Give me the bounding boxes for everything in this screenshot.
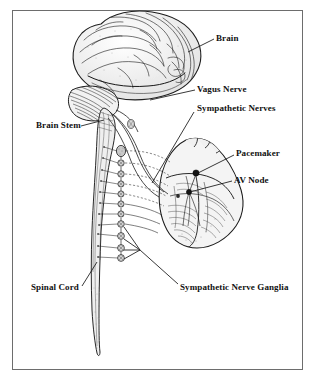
label-brain: Brain [216, 33, 239, 43]
label-spinal-cord: Spinal Cord [31, 282, 79, 292]
label-pacemaker: Pacemaker [236, 148, 280, 158]
anatomy-illustration [0, 0, 314, 381]
heart-structure [159, 129, 243, 248]
brain-stem-and-spinal-cord [91, 108, 115, 356]
label-sympathetic-nerves: Sympathetic Nerves [197, 103, 276, 113]
sympathetic-fibers-solid [125, 204, 162, 233]
label-sympathetic-nerve-ganglia: Sympathetic Nerve Ganglia [180, 282, 289, 292]
leader-ganglia [124, 227, 178, 284]
label-av-node: AV Node [234, 175, 269, 185]
label-vagus-nerve: Vagus Nerve [197, 84, 247, 94]
anatomical-figure: Brain Vagus Nerve Sympathetic Nerves Bra… [0, 0, 314, 381]
label-brain-stem: Brain Stem [36, 120, 81, 130]
